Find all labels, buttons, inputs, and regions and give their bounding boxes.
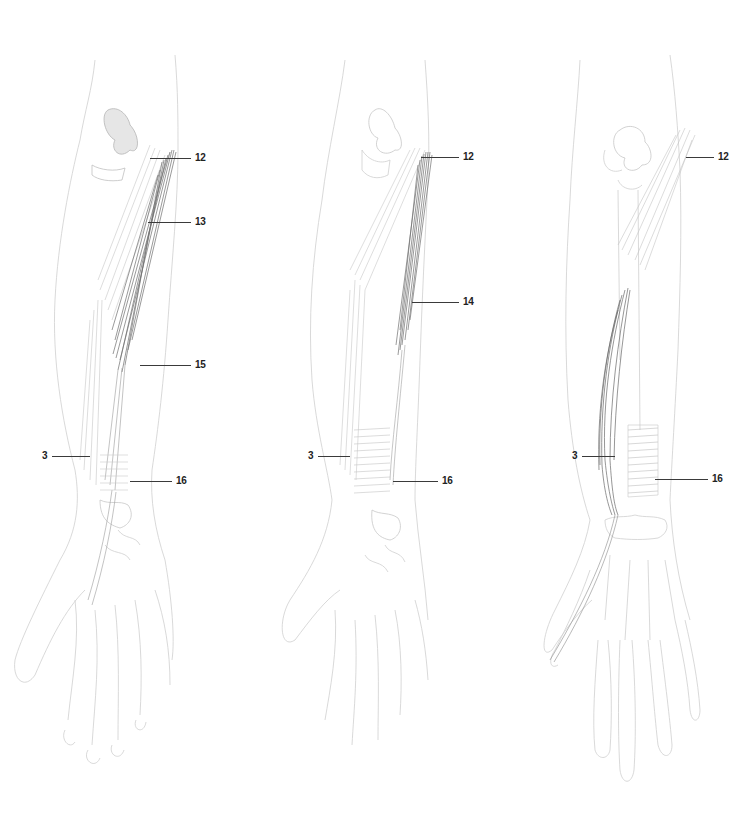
leader-line xyxy=(686,157,714,158)
label-number: 14 xyxy=(463,296,474,308)
label-number: 12 xyxy=(718,151,729,163)
forearm-illustration-intermediate xyxy=(250,0,500,834)
label-number: 13 xyxy=(195,216,206,228)
callout-14-panel2: 14 xyxy=(0,296,751,308)
forearm-panel-deep xyxy=(500,0,751,834)
label-number: 16 xyxy=(712,473,723,485)
leader-line xyxy=(140,365,191,366)
callout-16-panel3: 16 xyxy=(0,473,751,485)
callout-3-panel3: 3 xyxy=(0,450,751,462)
leader-line xyxy=(655,479,708,480)
leader-line xyxy=(148,222,191,223)
forearm-panel-superficial xyxy=(0,0,250,834)
callout-13-panel1: 13 xyxy=(0,216,751,228)
forearm-illustration-deep xyxy=(500,0,751,834)
label-number: 3 xyxy=(572,450,577,462)
callout-15-panel1: 15 xyxy=(0,359,751,371)
forearm-panel-intermediate xyxy=(250,0,500,834)
label-number: 15 xyxy=(195,359,206,371)
callout-12-panel3: 12 xyxy=(0,151,751,163)
forearm-illustration-superficial xyxy=(0,0,250,834)
leader-line xyxy=(582,456,615,457)
leader-line xyxy=(412,302,459,303)
